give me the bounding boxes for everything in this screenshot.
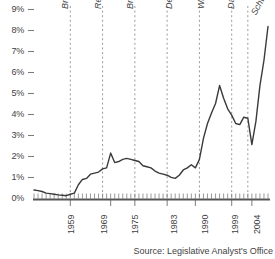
governor-label-davis: Davis — [226, 0, 236, 9]
governor-label-wilson: Wilson — [196, 0, 206, 9]
x-axis-label-1983: 1983 — [169, 215, 179, 234]
x-axis-label-1959: 1959 — [66, 215, 76, 234]
x-axis-label-1975: 1975 — [130, 215, 140, 234]
source-note: Source: Legislative Analyst's Office — [133, 246, 273, 256]
governor-label-brown-2: Brown — [125, 0, 135, 9]
data-series-line — [34, 26, 268, 195]
x-axis-label-2004: 2004 — [252, 215, 262, 234]
x-axis-label-1969: 1969 — [99, 215, 109, 234]
chart-container: 9% 8% 7% 6% 5% 4% 3% 2% 1% 0% Brown Reag… — [0, 0, 275, 259]
governor-label-reagan: Reagan — [93, 0, 103, 9]
governor-label-brown-1: Brown — [60, 0, 70, 9]
governor-divider-lines — [70, 6, 248, 198]
governor-label-deukmejian: Deukmejian — [164, 0, 174, 9]
x-axis-label-1999: 1999 — [230, 215, 240, 234]
x-axis-label-1990: 1990 — [200, 215, 210, 234]
